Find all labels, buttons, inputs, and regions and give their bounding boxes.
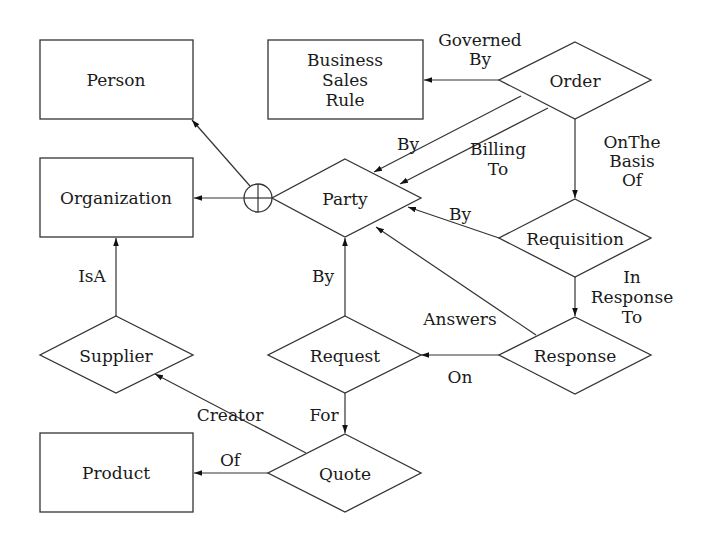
- edge-label-for: For: [309, 405, 339, 425]
- relationship-supplier-label: Supplier: [79, 346, 153, 366]
- edge-label-billing-to-line-1: Billing: [470, 139, 526, 159]
- entity-organization[interactable]: Organization: [40, 158, 193, 237]
- edge-label-in-response-to-line-2: Response: [591, 287, 673, 307]
- er-diagram: Person Organization Business Sales Rule …: [0, 0, 710, 546]
- relationship-party-label: Party: [322, 189, 368, 209]
- relationship-requisition-label: Requisition: [526, 229, 624, 249]
- entity-business-sales-rule-label-line-3: Rule: [325, 90, 364, 110]
- relationship-response-label: Response: [534, 346, 616, 366]
- edge-label-onthe-basis-of-line-1: OnThe: [603, 132, 660, 152]
- edge-label-creator: Creator: [197, 405, 264, 425]
- edge-label-governed-by-line-1: Governed: [438, 30, 522, 50]
- relationship-request[interactable]: Request: [268, 316, 421, 393]
- edge-label-requisition-party-by: By: [449, 204, 471, 224]
- entity-business-sales-rule-label-line-2: Sales: [322, 70, 368, 90]
- circle-plus-icon: [244, 184, 272, 212]
- entity-product-label: Product: [82, 463, 150, 483]
- edge-label-billing-to-line-2: To: [488, 159, 508, 179]
- relationship-requisition[interactable]: Requisition: [499, 199, 651, 277]
- entity-organization-label: Organization: [60, 188, 172, 208]
- relationship-party[interactable]: Party: [272, 159, 421, 237]
- edge-label-governed-by-line-2: By: [469, 49, 491, 69]
- edge-label-onthe-basis-of-line-3: Of: [622, 170, 644, 190]
- entity-person[interactable]: Person: [40, 40, 193, 119]
- edge-label-isa: IsA: [78, 266, 106, 286]
- edge-union-person: [192, 120, 250, 186]
- edge-label-answers: Answers: [422, 309, 496, 329]
- edge-label-request-party-by: By: [312, 266, 334, 286]
- relationship-order[interactable]: Order: [499, 42, 651, 119]
- edge-label-of: Of: [220, 450, 242, 470]
- entity-person-label: Person: [87, 70, 146, 90]
- relationship-request-label: Request: [310, 346, 380, 366]
- edge-label-in-response-to-line-3: To: [622, 307, 642, 327]
- edge-label-order-party-by: By: [397, 134, 419, 154]
- edge-label-in-response-to-line-1: In: [623, 267, 641, 287]
- relationship-order-label: Order: [549, 71, 601, 91]
- edge-label-on: On: [448, 367, 473, 387]
- entity-business-sales-rule[interactable]: Business Sales Rule: [268, 40, 423, 119]
- entity-business-sales-rule-label-line-1: Business: [307, 50, 383, 70]
- relationship-response[interactable]: Response: [499, 317, 651, 394]
- edge-label-onthe-basis-of-line-2: Basis: [609, 151, 655, 171]
- relationship-quote-label: Quote: [319, 464, 371, 484]
- entity-product[interactable]: Product: [40, 433, 193, 512]
